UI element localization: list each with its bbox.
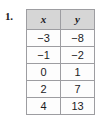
table-row: −3 −8 xyxy=(27,30,95,47)
cell-x: 4 xyxy=(27,98,61,115)
problem-number-label: 1. xyxy=(5,11,13,22)
exercise-item: 1. x y −3 −8 −1 −2 0 1 xyxy=(0,0,101,120)
column-header-y: y xyxy=(61,10,95,30)
cell-y: 13 xyxy=(61,98,95,115)
table-header-row: x y xyxy=(27,10,95,30)
cell-y: 7 xyxy=(61,81,95,98)
cell-x: 0 xyxy=(27,64,61,81)
table-row: −1 −2 xyxy=(27,47,95,64)
cell-y: −8 xyxy=(61,30,95,47)
cell-x: −3 xyxy=(27,30,61,47)
cell-x: −1 xyxy=(27,47,61,64)
cell-x: 2 xyxy=(27,81,61,98)
table-row: 2 7 xyxy=(27,81,95,98)
column-header-x: x xyxy=(27,10,61,30)
table-row: 4 13 xyxy=(27,98,95,115)
cell-y: −2 xyxy=(61,47,95,64)
table-row: 0 1 xyxy=(27,64,95,81)
function-table: x y −3 −8 −1 −2 0 1 2 7 4 13 xyxy=(26,9,95,115)
cell-y: 1 xyxy=(61,64,95,81)
